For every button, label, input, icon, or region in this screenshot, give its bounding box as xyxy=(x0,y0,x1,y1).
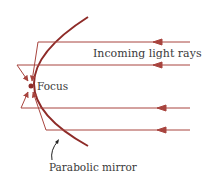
focus-point xyxy=(29,84,34,89)
mirror-pointer-arrow xyxy=(52,141,58,160)
focus-label: Focus xyxy=(37,80,68,92)
mirror-label: Parabolic mirror xyxy=(49,161,137,173)
incoming-rays-label: Incoming light rays xyxy=(93,47,202,60)
parabolic-mirror-diagram xyxy=(0,0,203,185)
